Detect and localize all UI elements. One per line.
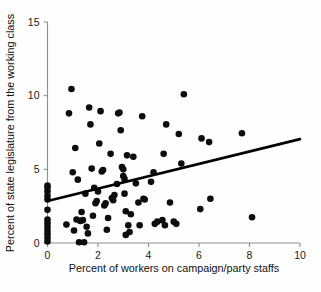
data-point (88, 165, 95, 172)
x-tick-label: 4 (146, 249, 152, 261)
data-point (90, 212, 97, 219)
data-point (239, 130, 246, 137)
data-point (96, 140, 103, 147)
data-point (163, 121, 170, 128)
data-point (176, 131, 183, 138)
data-point (173, 221, 180, 228)
x-tick-label: 0 (45, 249, 51, 261)
data-point (206, 139, 213, 146)
data-points (44, 86, 255, 246)
data-point (178, 160, 185, 167)
y-tick-label: 5 (34, 163, 40, 175)
y-axis-ticks: 051015 (28, 16, 48, 249)
chart-canvas: 051015 0246810 Percent of workers on cam… (0, 0, 321, 292)
data-point (93, 198, 100, 205)
data-point (124, 152, 131, 159)
data-point (83, 223, 90, 230)
y-tick-label: 0 (34, 237, 40, 249)
x-tick-label: 2 (95, 249, 101, 261)
x-axis-ticks: 0246810 (45, 243, 306, 261)
y-tick-label: 10 (28, 89, 40, 101)
data-point (249, 214, 256, 221)
data-point (100, 167, 107, 174)
data-point (78, 209, 85, 216)
data-point (81, 239, 88, 246)
data-point (44, 182, 51, 189)
data-point (130, 154, 137, 161)
data-point (87, 121, 94, 128)
data-point (148, 179, 155, 186)
data-point (80, 217, 87, 224)
data-point (128, 211, 135, 218)
data-point (120, 166, 127, 173)
x-axis-label: Percent of workers on campaign/party sta… (69, 262, 280, 274)
data-point (69, 169, 76, 176)
data-point (102, 200, 109, 207)
data-point (111, 192, 118, 199)
data-point (104, 226, 111, 233)
data-point (44, 207, 51, 214)
data-point (197, 206, 204, 213)
regression-line (48, 139, 301, 201)
data-point (107, 151, 114, 158)
data-point (167, 199, 174, 206)
data-point (85, 230, 92, 237)
data-point (68, 86, 75, 93)
data-point (139, 113, 146, 120)
data-point (105, 215, 112, 222)
data-point (86, 104, 93, 111)
data-point (181, 91, 188, 98)
data-point (125, 222, 132, 229)
data-point (121, 190, 128, 197)
data-point (71, 227, 78, 234)
scatter-plot-figure: 051015 0246810 Percent of workers on cam… (0, 0, 321, 292)
data-point (63, 221, 70, 228)
x-tick-label: 10 (294, 249, 306, 261)
data-point (117, 127, 124, 134)
data-point (162, 222, 169, 229)
data-point (66, 110, 73, 117)
y-tick-label: 15 (28, 16, 40, 28)
data-point (126, 229, 133, 236)
x-tick-label: 8 (247, 249, 253, 261)
y-axis-label: Percent of state legislature from the wo… (4, 13, 16, 252)
data-point (97, 108, 104, 115)
data-point (116, 109, 123, 116)
data-point (198, 135, 205, 142)
axes (48, 22, 301, 243)
x-tick-label: 6 (196, 249, 202, 261)
data-point (44, 216, 51, 223)
data-point (75, 176, 82, 183)
data-point (72, 145, 79, 152)
data-point (136, 222, 143, 229)
data-point (160, 151, 167, 158)
data-point (207, 196, 214, 203)
data-point (141, 196, 148, 203)
